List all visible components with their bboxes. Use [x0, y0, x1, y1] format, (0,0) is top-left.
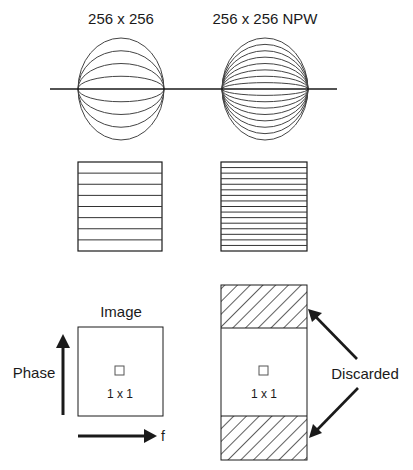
- voxel-label: 1 x 1: [107, 387, 133, 401]
- discarded-arrow-top-icon: [308, 309, 357, 359]
- slab-left: [78, 162, 162, 251]
- phase-label: Phase: [13, 364, 56, 381]
- phase-arrow-icon: [56, 334, 70, 415]
- npw-voxel-square: [259, 366, 268, 375]
- frequency-arrow-icon: [78, 429, 157, 443]
- discarded-arrow-bottom-icon: [309, 388, 358, 438]
- title-right: 256 x 256 NPW: [212, 10, 318, 27]
- voxel-square: [115, 366, 124, 375]
- npw-voxel-label: 1 x 1: [251, 387, 277, 401]
- discarded-label: Discarded: [331, 365, 399, 382]
- image-box: [78, 327, 163, 416]
- discarded-region-bottom: [221, 416, 307, 460]
- frequency-label: f: [161, 428, 165, 444]
- image-title: Image: [100, 303, 142, 320]
- title-left: 256 x 256: [88, 10, 154, 27]
- npw-diagram: 256 x 256 256 x 256 NPW Image 1 x 1 Phas…: [0, 0, 413, 470]
- slab-right: [221, 162, 307, 251]
- discarded-region-top: [221, 285, 307, 328]
